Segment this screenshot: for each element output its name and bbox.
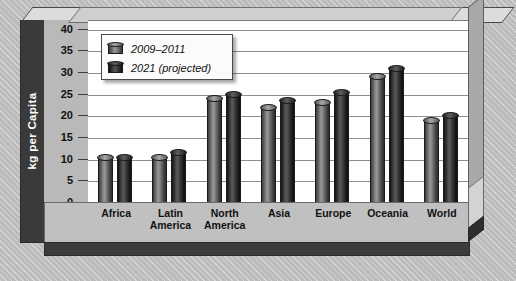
- bar-1-4[interactable]: [315, 103, 330, 203]
- bar-2-3[interactable]: [280, 101, 295, 203]
- y-axis-tick-label: 15: [61, 131, 73, 143]
- bar-2-4[interactable]: [334, 93, 349, 204]
- gridline: [88, 95, 468, 96]
- gridline: [88, 181, 468, 182]
- y-axis-tick-label: 40: [61, 23, 73, 35]
- bar-2-6[interactable]: [443, 116, 458, 203]
- legend-label-series1: 2009–2011: [131, 43, 185, 55]
- bar-2-1[interactable]: [171, 153, 186, 203]
- y-axis-tick-label: 30: [61, 66, 73, 78]
- y-axis-tick-mark: [78, 115, 88, 116]
- bar-1-6[interactable]: [424, 121, 439, 203]
- y-axis-tick-mark: [78, 137, 88, 138]
- y-axis-title-text: kg per Capita: [26, 93, 38, 170]
- legend-swatch-series2-icon: [108, 62, 123, 73]
- legend-swatch-series1-icon: [108, 43, 123, 54]
- gridline: [88, 138, 468, 139]
- bar-chart: kg per Capita 0510152025303540 AfricaLat…: [0, 0, 516, 281]
- y-axis-title: kg per Capita: [20, 20, 44, 242]
- chart-3d-right-wall: [468, 0, 484, 205]
- bar-1-5[interactable]: [370, 77, 385, 203]
- bar-1-1[interactable]: [152, 158, 167, 204]
- bar-2-5[interactable]: [389, 69, 404, 203]
- bar-2-2[interactable]: [226, 95, 241, 203]
- gridline: [88, 30, 468, 31]
- legend-label-series2: 2021 (projected): [131, 62, 211, 74]
- y-axis-tick-mark: [78, 159, 88, 160]
- legend-item-series1[interactable]: 2009–2011: [108, 39, 232, 58]
- y-axis-tick-label: 10: [61, 153, 73, 165]
- legend-item-series2[interactable]: 2021 (projected): [108, 58, 232, 77]
- y-axis-tick-mark: [78, 94, 88, 95]
- y-axis-tick-label: 25: [61, 88, 73, 100]
- y-axis-tick-mark: [78, 29, 88, 30]
- bar-1-2[interactable]: [207, 99, 222, 203]
- gridline: [88, 160, 468, 161]
- y-axis-tick-label: 5: [67, 174, 73, 186]
- y-axis-tick-label: 35: [61, 44, 73, 56]
- y-axis-tick-label: 20: [61, 109, 73, 121]
- bar-2-0[interactable]: [117, 158, 132, 203]
- chart-legend: 2009–2011 2021 (projected): [101, 34, 233, 80]
- category-floor: AfricaLatinAmericaNorthAmericaAsiaEurope…: [44, 202, 470, 244]
- y-axis-tick-mark: [78, 50, 88, 51]
- gridline: [88, 116, 468, 117]
- y-axis-tick-mark: [78, 72, 88, 73]
- y-axis-tick-mark: [78, 180, 88, 181]
- bar-1-3[interactable]: [261, 108, 276, 203]
- bar-1-0[interactable]: [98, 158, 113, 204]
- floor-front-shadow: [44, 242, 470, 256]
